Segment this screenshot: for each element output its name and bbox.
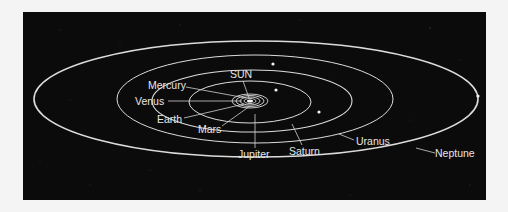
label-mercury: Mercury (148, 79, 187, 91)
label-sun: SUN (230, 68, 252, 80)
solar-system-diagram: SUN Mercury Venus Earth Mars Jupiter Sat… (0, 0, 508, 212)
sun-icon (247, 100, 253, 103)
orbit-neptune (34, 41, 478, 157)
label-earth: Earth (157, 113, 182, 125)
planet-saturn-dot (317, 110, 320, 113)
planet-neptune-dot (476, 94, 479, 97)
label-neptune: Neptune (435, 147, 475, 159)
label-uranus: Uranus (356, 135, 390, 147)
label-mars: Mars (198, 123, 221, 135)
planet-jupiter-dot (274, 88, 277, 91)
planet-uranus-dot (271, 62, 274, 65)
label-jupiter: Jupiter (238, 148, 270, 160)
label-saturn: Saturn (289, 145, 320, 157)
label-venus: Venus (135, 95, 164, 107)
